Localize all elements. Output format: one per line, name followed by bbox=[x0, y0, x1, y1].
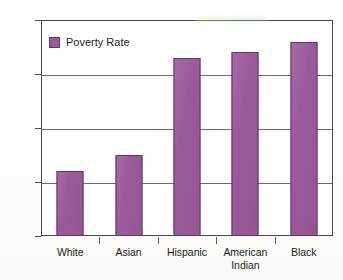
chart-legend: Poverty Rate bbox=[49, 36, 130, 48]
y-tick-0 bbox=[35, 236, 41, 237]
legend-color-swatch-icon bbox=[49, 37, 60, 48]
bar-slot-american-indian bbox=[216, 20, 274, 236]
bars-layer bbox=[41, 20, 333, 236]
x-tick-2 bbox=[158, 237, 159, 244]
bar-slot-hispanic bbox=[158, 20, 216, 236]
x-axis-label-black: Black bbox=[275, 246, 333, 259]
poverty-rate-bar-chart: 40% 30% 20% 10% 0% White Asian Hispanic … bbox=[0, 0, 343, 280]
bar-white[interactable] bbox=[57, 171, 84, 236]
bar-asian[interactable] bbox=[115, 155, 142, 236]
bar-hispanic[interactable] bbox=[173, 58, 200, 236]
bar-slot-white bbox=[41, 20, 99, 236]
x-tick-3 bbox=[216, 237, 217, 244]
x-axis-label-american-indian: American Indian bbox=[214, 246, 276, 272]
x-axis-label-white: White bbox=[41, 246, 99, 259]
legend-label-poverty-rate: Poverty Rate bbox=[66, 36, 130, 48]
bar-american-indian[interactable] bbox=[232, 52, 259, 236]
x-axis-label-hispanic: Hispanic bbox=[156, 246, 218, 259]
bar-slot-asian bbox=[99, 20, 157, 236]
x-tick-4 bbox=[275, 237, 276, 244]
x-axis-label-asian: Asian bbox=[99, 246, 157, 259]
x-tick-1 bbox=[99, 237, 100, 244]
bar-black[interactable] bbox=[290, 42, 317, 236]
bar-slot-black bbox=[275, 20, 333, 236]
